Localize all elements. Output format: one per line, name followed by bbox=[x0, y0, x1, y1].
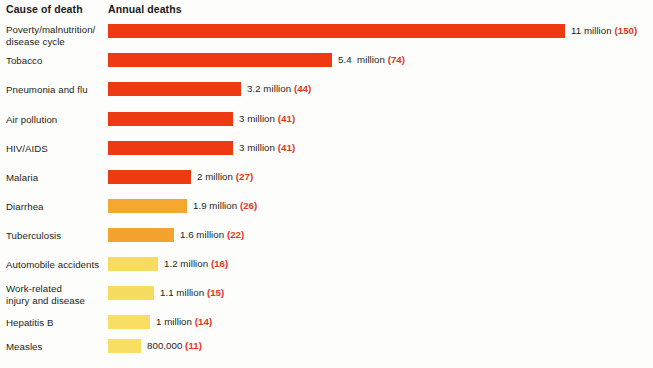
value-amount: 5.4 million bbox=[338, 54, 388, 65]
value-label: 1 million (14) bbox=[156, 315, 212, 329]
bar bbox=[108, 315, 150, 329]
value-rank: (11) bbox=[185, 340, 202, 351]
category-label: Measles bbox=[6, 341, 42, 353]
value-label: 11 million (150) bbox=[571, 24, 637, 38]
value-rank: (15) bbox=[207, 287, 224, 298]
bar bbox=[108, 199, 187, 213]
value-label: 1.9 million (26) bbox=[193, 199, 257, 213]
category-label: Air pollution bbox=[6, 114, 57, 126]
value-rank: (44) bbox=[294, 83, 311, 94]
value-amount: 1 million bbox=[156, 316, 195, 327]
value-amount: 1.1 million bbox=[160, 287, 207, 298]
value-label: 1.2 million (16) bbox=[164, 257, 228, 271]
category-label: Diarrhea bbox=[6, 201, 44, 213]
value-label: 800,000 (11) bbox=[147, 339, 202, 353]
category-label: Automobile accidents bbox=[6, 259, 99, 271]
value-amount: 1.6 million bbox=[180, 229, 227, 240]
value-rank: (74) bbox=[388, 54, 405, 65]
value-rank: (41) bbox=[278, 142, 295, 153]
value-amount: 3 million bbox=[239, 142, 278, 153]
value-amount: 11 million bbox=[571, 25, 614, 36]
bar bbox=[108, 24, 565, 38]
value-rank: (16) bbox=[211, 258, 228, 269]
mortality-bar-chart: Cause of death Annual deaths Poverty/mal… bbox=[0, 0, 653, 368]
value-amount: 1.9 million bbox=[193, 200, 240, 211]
column-header-annual-deaths: Annual deaths bbox=[108, 3, 182, 15]
value-rank: (27) bbox=[236, 171, 253, 182]
value-label: 3.2 million (44) bbox=[247, 82, 311, 96]
value-label: 3 million (41) bbox=[239, 112, 295, 126]
value-label: 1.6 million (22) bbox=[180, 228, 244, 242]
bar bbox=[108, 82, 241, 96]
bar bbox=[108, 53, 332, 67]
value-label: 3 million (41) bbox=[239, 141, 295, 155]
value-label: 1.1 million (15) bbox=[160, 286, 224, 300]
bar bbox=[108, 257, 158, 271]
value-amount: 3 million bbox=[239, 113, 278, 124]
category-label: Hepatitis B bbox=[6, 317, 53, 329]
bar bbox=[108, 170, 191, 184]
value-label: 5.4 million (74) bbox=[338, 53, 405, 67]
value-rank: (14) bbox=[195, 316, 212, 327]
column-headers: Cause of death Annual deaths bbox=[0, 3, 653, 19]
bar bbox=[108, 339, 141, 353]
category-label: Work-related injury and disease bbox=[6, 283, 85, 306]
value-amount: 800,000 bbox=[147, 340, 185, 351]
value-amount: 2 million bbox=[197, 171, 236, 182]
value-amount: 3.2 million bbox=[247, 83, 294, 94]
bar bbox=[108, 112, 233, 126]
category-label: Tobacco bbox=[6, 55, 42, 67]
value-amount: 1.2 million bbox=[164, 258, 211, 269]
value-rank: (22) bbox=[227, 229, 244, 240]
value-rank: (150) bbox=[614, 25, 637, 36]
category-label: Tuberculosis bbox=[6, 230, 61, 242]
column-header-cause-of-death: Cause of death bbox=[6, 3, 83, 15]
bar bbox=[108, 286, 154, 300]
category-label: Pneumonia and flu bbox=[6, 84, 88, 96]
value-label: 2 million (27) bbox=[197, 170, 253, 184]
bar bbox=[108, 141, 233, 155]
value-rank: (26) bbox=[240, 200, 257, 211]
category-label: HIV/AIDS bbox=[6, 143, 48, 155]
bar bbox=[108, 228, 174, 242]
category-label: Malaria bbox=[6, 172, 38, 184]
category-label: Poverty/malnutrition/ disease cycle bbox=[6, 24, 95, 47]
value-rank: (41) bbox=[278, 113, 295, 124]
